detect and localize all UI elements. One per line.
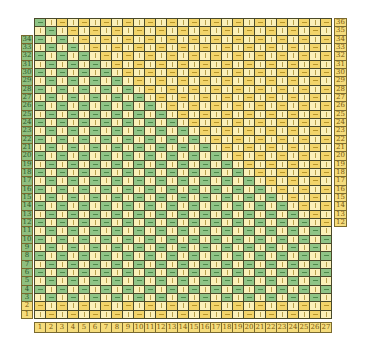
game-board: 1234567891011121314151617181920212223242… [0,0,365,348]
row-label-left-27: 27 [21,93,33,102]
row-label-left-34: 34 [21,35,33,44]
row-label-left-2: 2 [21,301,33,310]
row-label-right-19: 19 [334,160,347,169]
row-label-left-23: 23 [21,126,33,135]
row-label-right-32: 32 [334,51,347,60]
row-label-left-26: 26 [21,101,33,110]
row-label-right-23: 23 [334,126,347,135]
row-label-right-15: 15 [334,193,347,202]
row-label-right-21: 21 [334,143,347,152]
row-label-left-12: 12 [21,218,33,227]
row-label-right-27: 27 [334,93,347,102]
row-label-right-22: 22 [334,135,347,144]
row-label-right-25: 25 [334,110,347,119]
row-label-right-24: 24 [334,118,347,127]
row-label-left-28: 28 [21,85,33,94]
row-label-right-20: 20 [334,151,347,160]
row-label-right-35: 35 [334,26,347,35]
row-label-left-17: 17 [21,176,33,185]
row-label-left-8: 8 [21,251,33,260]
column-label-27: 27 [320,322,332,333]
row-label-left-16: 16 [21,185,33,194]
row-label-right-31: 31 [334,60,347,69]
row-label-left-33: 33 [21,43,33,52]
row-label-left-11: 11 [21,226,33,235]
row-label-left-4: 4 [21,285,33,294]
board-cell-r1-c27[interactable] [320,310,332,319]
row-label-left-13: 13 [21,210,33,219]
row-label-right-18: 18 [334,168,347,177]
row-label-left-30: 30 [21,68,33,77]
row-label-left-31: 31 [21,60,33,69]
row-label-right-16: 16 [334,185,347,194]
row-label-left-3: 3 [21,293,33,302]
row-label-left-1: 1 [21,310,33,319]
row-label-right-17: 17 [334,176,347,185]
row-label-right-30: 30 [334,68,347,77]
row-label-left-6: 6 [21,268,33,277]
row-label-left-10: 10 [21,235,33,244]
row-label-right-28: 28 [334,85,347,94]
row-label-left-22: 22 [21,135,33,144]
row-label-right-26: 26 [334,101,347,110]
row-label-left-29: 29 [21,76,33,85]
row-label-left-20: 20 [21,151,33,160]
row-label-left-5: 5 [21,276,33,285]
row-label-left-24: 24 [21,118,33,127]
row-label-left-18: 18 [21,168,33,177]
row-label-right-13: 13 [334,210,347,219]
row-label-right-29: 29 [334,76,347,85]
row-label-right-36: 36 [334,18,347,27]
row-label-left-7: 7 [21,260,33,269]
row-label-left-14: 14 [21,201,33,210]
row-label-right-33: 33 [334,43,347,52]
row-label-left-21: 21 [21,143,33,152]
row-label-left-19: 19 [21,160,33,169]
row-label-right-12: 12 [334,218,347,227]
row-label-right-14: 14 [334,201,347,210]
row-label-left-32: 32 [21,51,33,60]
row-label-right-34: 34 [334,35,347,44]
row-label-left-9: 9 [21,243,33,252]
row-label-left-25: 25 [21,110,33,119]
row-label-left-15: 15 [21,193,33,202]
